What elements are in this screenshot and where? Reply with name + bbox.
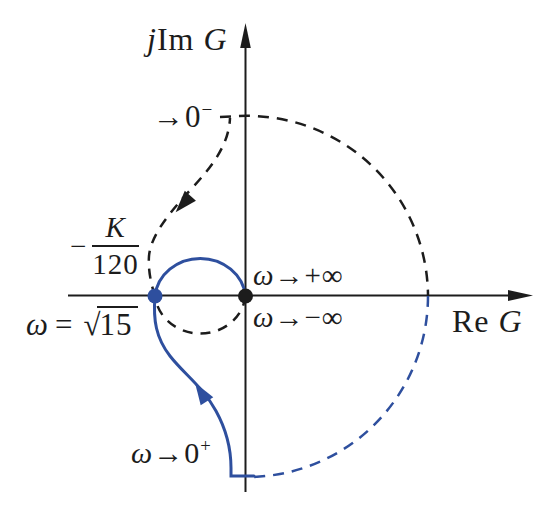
omega-minus-infinity-label: ω→−∞ (253, 303, 344, 332)
gain-numerator: K (92, 213, 138, 247)
sqrt15-equals: = (55, 307, 73, 342)
real-axis-label: Re G (452, 305, 523, 337)
omega-plus-inf-arrow: → (274, 259, 304, 291)
neg-freq-zero-arrow: → (153, 99, 185, 134)
omega-plus-inf-omega: ω (253, 259, 274, 291)
imag-axis-label-g: G (203, 21, 227, 57)
neg-freq-zero-sup: − (202, 99, 213, 120)
omega-plus-inf-value: +∞ (304, 259, 343, 291)
imag-axis-arrowhead (240, 23, 251, 48)
nyquist-figure: jIm G →0− − K 120 ω=√15 ω→+∞ ω→−∞ ω→0+ R… (0, 0, 554, 514)
gain-minus-sign: − (70, 232, 87, 261)
imag-axis-label-im: Im (157, 21, 195, 57)
omega-zero-plus-value: 0 (184, 436, 200, 469)
small-loop-upper-solid (155, 258, 246, 296)
omega-zero-plus-arrow: → (153, 436, 184, 469)
gain-crossing-label: − K 120 (70, 213, 139, 279)
gain-fraction: K 120 (92, 213, 139, 279)
imag-axis-label-j: j (147, 21, 157, 57)
small-loop-lower-dashed (155, 296, 246, 334)
omega-minus-inf-value: −∞ (304, 301, 343, 333)
sqrt15-crossing-dot (148, 289, 163, 304)
negative-freq-direction-arrow (170, 191, 196, 217)
real-axis-label-g: G (499, 303, 523, 339)
sqrt15-frequency-label: ω=√15 (26, 306, 138, 340)
real-axis-arrowhead (508, 290, 533, 301)
neg-freq-zero-label: →0− (153, 100, 212, 132)
omega-minus-inf-omega: ω (253, 301, 274, 333)
real-axis-label-re: Re (452, 303, 490, 339)
sqrt15-omega: ω (26, 307, 49, 342)
omega-zero-plus-label: ω→0+ (131, 437, 211, 468)
gain-denominator: 120 (92, 247, 139, 279)
omega-zero-plus-sup: + (200, 435, 211, 456)
negative-freq-s-curve-dashed (149, 118, 230, 296)
imag-axis-label: jIm G (147, 23, 228, 55)
omega-plus-infinity-label: ω→+∞ (253, 261, 344, 290)
origin-dot (238, 289, 253, 304)
neg-freq-zero-value: 0 (185, 99, 202, 134)
omega-zero-plus-omega: ω (131, 436, 153, 469)
omega-minus-inf-arrow: → (274, 301, 304, 333)
sqrt15-radicand: 15 (97, 306, 138, 340)
